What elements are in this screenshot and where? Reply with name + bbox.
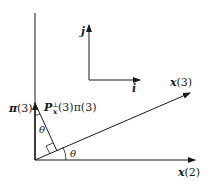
- theta-bottom-label: θ: [70, 148, 76, 159]
- theta-top-label: θ: [39, 124, 45, 135]
- i-label: i: [132, 82, 136, 95]
- pi3-label: π(3): [8, 102, 33, 115]
- projection-diagram: j i x(3) x(2) π(3) P⊥x(3)π(3) θ θ: [0, 0, 212, 184]
- angle-arc-bottom: [63, 147, 66, 160]
- projection-label-sub: x: [52, 107, 58, 116]
- pi3-label-arg: (3): [17, 102, 33, 115]
- x3-label: x(3): [169, 76, 192, 89]
- x2-label: x(2): [177, 166, 200, 179]
- angle-arc-top: [35, 114, 40, 115]
- x3-label-arg: (3): [177, 76, 193, 89]
- x2-label-arg: (2): [185, 166, 201, 179]
- projection-label-rest: (3)π(3): [58, 101, 96, 114]
- j-label: j: [79, 25, 85, 38]
- projection-label: P⊥x(3)π(3): [43, 101, 96, 116]
